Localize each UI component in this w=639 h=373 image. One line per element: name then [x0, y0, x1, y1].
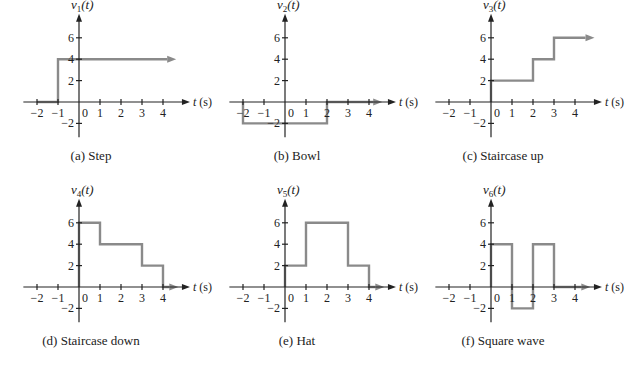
- panel-caption: (f) Square wave: [461, 333, 544, 348]
- y-axis-arrow-icon: [488, 14, 494, 22]
- y-tick-label: 6: [480, 216, 486, 230]
- y-axis-label: v5(t): [277, 182, 300, 199]
- x-tick-label: 2: [118, 291, 124, 305]
- panel-e: t (s)v5(t)−2−101234642−2(e) Hat: [229, 182, 418, 348]
- x-tick-label: 0: [288, 291, 294, 305]
- x-tick-label: 4: [366, 106, 372, 120]
- x-tick-label: 4: [160, 291, 166, 305]
- y-tick-label: 4: [480, 237, 486, 251]
- y-tick-label: 4: [68, 237, 74, 251]
- panel-f: t (s)v6(t)−2−101234642−2(f) Square wave: [435, 182, 624, 348]
- x-tick-label: 0: [82, 106, 88, 120]
- x-tick-label: 2: [530, 291, 536, 305]
- y-tick-label: 4: [274, 52, 280, 66]
- figure-canvas: t (s)v1(t)−2−101234642−2(a) Stept (s)v2(…: [0, 0, 639, 373]
- x-tick-label: 4: [366, 291, 372, 305]
- y-axis-label: v6(t): [483, 182, 506, 199]
- y-tick-label: 2: [274, 259, 280, 273]
- signal-trace: [491, 38, 586, 102]
- y-tick-label: 4: [274, 237, 280, 251]
- y-tick-label: −2: [61, 116, 74, 130]
- x-tick-label: 4: [572, 291, 578, 305]
- y-tick-label: −2: [267, 116, 280, 130]
- y-axis-arrow-icon: [76, 199, 82, 207]
- panel-caption: (a) Step: [71, 148, 112, 163]
- signal-trace: [79, 223, 169, 287]
- x-tick-label: 1: [303, 106, 309, 120]
- y-tick-label: 2: [68, 259, 74, 273]
- signal-arrow-icon: [167, 56, 176, 63]
- x-tick-label: 1: [97, 106, 103, 120]
- y-tick-label: 4: [480, 52, 486, 66]
- signal-trace: [285, 223, 375, 287]
- x-axis-label: t (s): [399, 280, 418, 294]
- x-axis-arrow-icon: [388, 284, 396, 290]
- panel-caption: (b) Bowl: [274, 148, 321, 163]
- x-tick-label: 4: [160, 106, 166, 120]
- x-tick-label: 3: [551, 106, 557, 120]
- x-tick-label: −2: [237, 106, 250, 120]
- x-tick-label: 1: [509, 106, 515, 120]
- panel-b: t (s)v2(t)−2−101234642−2(b) Bowl: [229, 0, 418, 163]
- y-tick-label: −2: [473, 116, 486, 130]
- y-tick-label: 6: [68, 31, 74, 45]
- x-axis-label: t (s): [193, 280, 212, 294]
- x-tick-label: −2: [31, 106, 44, 120]
- x-tick-label: 2: [324, 106, 330, 120]
- x-axis-arrow-icon: [182, 284, 190, 290]
- y-tick-label: 2: [68, 74, 74, 88]
- x-tick-label: 2: [530, 106, 536, 120]
- y-tick-label: −2: [473, 301, 486, 315]
- panel-c: t (s)v3(t)−2−101234642−2(c) Staircase up: [435, 0, 624, 163]
- x-tick-label: −2: [443, 291, 456, 305]
- y-axis-arrow-icon: [488, 199, 494, 207]
- x-tick-label: 1: [509, 291, 515, 305]
- x-tick-label: −2: [443, 106, 456, 120]
- y-tick-label: 6: [274, 216, 280, 230]
- panel-caption: (d) Staircase down: [42, 333, 140, 348]
- x-tick-label: −2: [237, 291, 250, 305]
- x-tick-label: 3: [139, 291, 145, 305]
- y-tick-label: −2: [61, 301, 74, 315]
- y-tick-label: −2: [267, 301, 280, 315]
- x-axis-arrow-icon: [594, 99, 602, 105]
- signal-trace: [491, 244, 581, 308]
- x-tick-label: 3: [551, 291, 557, 305]
- y-axis-label: v4(t): [71, 182, 94, 199]
- y-axis-label: v1(t): [71, 0, 94, 14]
- x-tick-label: 2: [324, 291, 330, 305]
- x-tick-label: 3: [345, 106, 351, 120]
- x-tick-label: 2: [118, 106, 124, 120]
- y-axis-label: v3(t): [483, 0, 506, 14]
- x-axis-arrow-icon: [388, 99, 396, 105]
- x-tick-label: 3: [139, 106, 145, 120]
- x-axis-label: t (s): [399, 95, 418, 109]
- panel-a: t (s)v1(t)−2−101234642−2(a) Step: [23, 0, 212, 163]
- y-tick-label: 2: [480, 74, 486, 88]
- x-axis-arrow-icon: [594, 284, 602, 290]
- x-tick-label: 0: [494, 106, 500, 120]
- signal-arrow-icon: [586, 34, 595, 41]
- x-tick-label: −2: [31, 291, 44, 305]
- x-axis-label: t (s): [605, 95, 624, 109]
- signal-trace: [37, 59, 167, 102]
- x-axis-label: t (s): [193, 95, 212, 109]
- y-tick-label: 2: [274, 74, 280, 88]
- panel-caption: (c) Staircase up: [463, 148, 544, 163]
- y-axis-arrow-icon: [282, 199, 288, 207]
- y-tick-label: 2: [480, 259, 486, 273]
- x-axis-label: t (s): [605, 280, 624, 294]
- y-tick-label: 6: [68, 216, 74, 230]
- x-tick-label: 1: [303, 291, 309, 305]
- y-tick-label: 6: [480, 31, 486, 45]
- y-tick-label: 4: [68, 52, 74, 66]
- x-tick-label: 4: [572, 106, 578, 120]
- y-axis-arrow-icon: [282, 14, 288, 22]
- x-axis-arrow-icon: [182, 99, 190, 105]
- x-tick-label: 0: [288, 106, 294, 120]
- panel-d: t (s)v4(t)−2−101234642−2(d) Staircase do…: [23, 182, 212, 348]
- y-tick-label: 6: [274, 31, 280, 45]
- x-tick-label: 0: [494, 291, 500, 305]
- y-axis-arrow-icon: [76, 14, 82, 22]
- panel-caption: (e) Hat: [279, 333, 316, 348]
